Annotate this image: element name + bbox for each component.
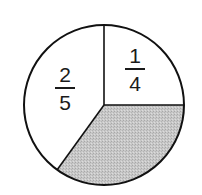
fraction-numerator: 1	[123, 45, 147, 66]
fraction-denominator: 4	[123, 73, 147, 94]
fraction-bar	[55, 87, 75, 89]
fraction-denominator: 5	[53, 92, 77, 113]
fraction-bar	[125, 68, 145, 70]
fraction-numerator: 2	[53, 64, 77, 85]
slice-label-two-fifths: 2 5	[53, 64, 77, 113]
slice-label-one-quarter: 1 4	[123, 45, 147, 94]
pie-chart	[0, 0, 202, 195]
